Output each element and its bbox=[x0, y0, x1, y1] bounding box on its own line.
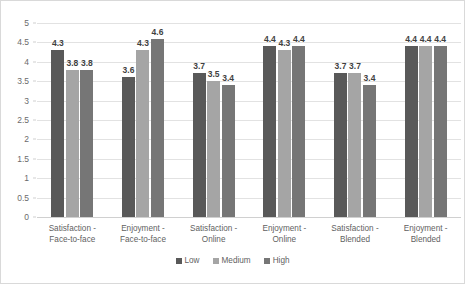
y-axis-tick-label: 1.5 bbox=[17, 155, 29, 164]
y-axis-tick-mark bbox=[33, 217, 36, 218]
bar-medium bbox=[348, 73, 361, 217]
bar-group: 4.33.83.8 bbox=[37, 23, 108, 217]
bar-value-label: 4.3 bbox=[278, 39, 290, 48]
y-axis-tick-label: 1 bbox=[24, 174, 29, 183]
y-axis-tick-mark bbox=[33, 139, 36, 140]
y-axis-tick-mark bbox=[33, 23, 36, 24]
y-axis-tick-label: 4 bbox=[24, 58, 29, 67]
bar-value-label: 4.6 bbox=[152, 28, 164, 37]
y-axis-tick-mark bbox=[33, 158, 36, 159]
x-axis-category-label: Satisfaction - Online bbox=[178, 223, 249, 245]
y-axis-tick-mark bbox=[33, 178, 36, 179]
x-axis-category-label: Enjoyment - Online bbox=[249, 223, 320, 245]
bar-low bbox=[334, 73, 347, 217]
legend-item-medium[interactable]: Medium bbox=[213, 257, 251, 265]
bar-medium bbox=[66, 70, 79, 217]
bar-value-label: 4.4 bbox=[293, 35, 305, 44]
bar-high bbox=[80, 70, 93, 217]
x-axis-category-label: Satisfaction - Face-to-face bbox=[37, 223, 108, 245]
y-axis-tick-label: 2 bbox=[24, 135, 29, 144]
bar-group: 3.64.34.6 bbox=[108, 23, 179, 217]
legend-item-low[interactable]: Low bbox=[176, 257, 200, 265]
bar-value-label: 4.4 bbox=[264, 35, 276, 44]
y-axis: 54.543.532.521.510.50 bbox=[1, 23, 33, 217]
x-axis-category-label: Enjoyment - Face-to-face bbox=[108, 223, 179, 245]
bar-value-label: 3.6 bbox=[123, 66, 135, 75]
y-axis-tick-mark bbox=[33, 197, 36, 198]
legend-label: Low bbox=[185, 257, 200, 265]
x-axis-category-label: Satisfaction - Blended bbox=[320, 223, 391, 245]
legend-label: Medium bbox=[222, 257, 251, 265]
legend-label: High bbox=[273, 257, 290, 265]
y-axis-tick-label: 0 bbox=[24, 213, 29, 222]
bar-medium bbox=[207, 81, 220, 217]
bar-high bbox=[151, 39, 164, 217]
bar-medium bbox=[419, 46, 432, 217]
bar-value-label: 3.7 bbox=[349, 62, 361, 71]
bar-low bbox=[263, 46, 276, 217]
bar-value-label: 4.4 bbox=[434, 35, 446, 44]
bar-value-label: 3.5 bbox=[208, 70, 220, 79]
bar-medium bbox=[136, 50, 149, 217]
bar-value-label: 3.8 bbox=[66, 59, 78, 68]
bar-value-label: 4.4 bbox=[420, 35, 432, 44]
bar-medium bbox=[278, 50, 291, 217]
y-axis-tick-label: 4.5 bbox=[17, 38, 29, 47]
bar-low bbox=[193, 73, 206, 217]
bar-group: 4.44.44.4 bbox=[390, 23, 461, 217]
bar-low bbox=[51, 50, 64, 217]
bar-group: 4.44.34.4 bbox=[249, 23, 320, 217]
x-axis-category-label: Enjoyment - Blended bbox=[390, 223, 461, 245]
y-axis-tick-mark bbox=[33, 100, 36, 101]
bar-low bbox=[405, 46, 418, 217]
bar-high bbox=[222, 85, 235, 217]
y-axis-tick-label: 3 bbox=[24, 96, 29, 105]
bar-value-label: 4.3 bbox=[52, 39, 64, 48]
y-axis-tick-mark bbox=[33, 120, 36, 121]
y-axis-tick-label: 0.5 bbox=[17, 193, 29, 202]
bar-value-label: 3.4 bbox=[222, 74, 234, 83]
bar-chart: 54.543.532.521.510.50 4.33.83.83.64.34.6… bbox=[0, 0, 465, 284]
chart-legend: LowMediumHigh bbox=[1, 257, 464, 265]
y-axis-tick-label: 3.5 bbox=[17, 77, 29, 86]
plot-area: 4.33.83.83.64.34.63.73.53.44.44.34.43.73… bbox=[37, 23, 461, 217]
bar-group: 3.73.53.4 bbox=[178, 23, 249, 217]
bar-group: 3.73.73.4 bbox=[320, 23, 391, 217]
legend-swatch-icon bbox=[176, 258, 182, 264]
bar-high bbox=[434, 46, 447, 217]
bar-value-label: 3.7 bbox=[335, 62, 347, 71]
legend-item-high[interactable]: High bbox=[264, 257, 290, 265]
y-axis-tick-label: 2.5 bbox=[17, 116, 29, 125]
bar-value-label: 4.3 bbox=[137, 39, 149, 48]
y-axis-tick-mark bbox=[33, 61, 36, 62]
gridline bbox=[37, 217, 461, 218]
bar-low bbox=[122, 77, 135, 217]
y-axis-tick-mark bbox=[33, 42, 36, 43]
bar-value-label: 3.8 bbox=[81, 59, 93, 68]
bar-high bbox=[292, 46, 305, 217]
bar-value-label: 3.7 bbox=[193, 62, 205, 71]
y-axis-tick-mark bbox=[33, 81, 36, 82]
legend-swatch-icon bbox=[264, 258, 270, 264]
bar-value-label: 4.4 bbox=[405, 35, 417, 44]
legend-swatch-icon bbox=[213, 258, 219, 264]
y-axis-tick-label: 5 bbox=[24, 19, 29, 28]
bar-value-label: 3.4 bbox=[364, 74, 376, 83]
bar-high bbox=[363, 85, 376, 217]
